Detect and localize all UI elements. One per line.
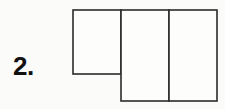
middle-rectangle-shape [121,10,169,101]
right-rectangle-shape [169,10,217,101]
net-figure-diagram [0,0,225,109]
worksheet-problem-item: 2. [0,0,225,109]
left-square-shape [73,10,121,74]
